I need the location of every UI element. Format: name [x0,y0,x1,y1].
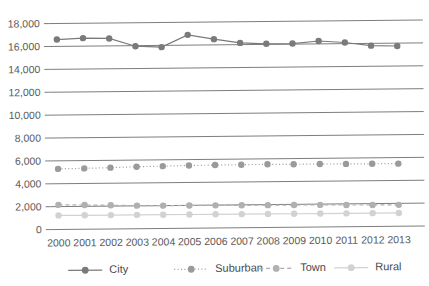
data-point [80,35,86,41]
x-tick-label: 2006 [204,235,228,247]
x-tick-label: 2010 [309,234,333,246]
data-point [317,202,323,208]
gridline [50,157,424,161]
legend-item-town[interactable]: Town [259,261,326,274]
data-point [315,38,321,44]
series-suburban [55,160,402,172]
data-point [396,210,402,216]
y-tick-label: 6,000 [15,155,42,167]
legend-marker [82,267,89,274]
gridlines [49,20,425,230]
data-point [211,36,217,42]
x-tick-label: 2003 [126,236,150,248]
data-point [343,161,349,167]
series-rural [55,209,402,220]
data-point [394,43,400,49]
legend-marker [188,266,195,273]
data-point [342,39,348,45]
x-tick-label: 2011 [335,234,358,246]
data-point [264,161,270,167]
x-tick-label: 2007 [230,235,254,247]
legend-label: Suburban [215,261,263,273]
legend-label: City [109,263,129,275]
data-point [368,42,374,48]
series-city [54,30,401,53]
data-point [317,161,323,167]
data-point [289,40,295,46]
data-point [263,41,269,47]
legend-marker [348,264,355,271]
data-point [184,32,190,38]
x-tick-label: 2009 [283,234,307,246]
data-point [343,202,349,208]
data-point [369,161,375,167]
data-point [237,40,243,46]
data-point [395,160,401,166]
data-point [186,202,192,208]
data-point [160,211,166,217]
gridline [49,66,423,70]
data-point [186,211,192,217]
y-tick-label: 2,000 [15,200,42,212]
legend-marker [273,265,280,272]
line-chart: 18,00016,00014,00012,00010,0008,0006,000… [0,0,429,286]
chart-legend: CitySuburbanTownRural [68,260,401,275]
data-point [265,202,271,208]
data-point [81,212,87,218]
legend-item-city[interactable]: City [68,263,129,276]
chart-svg: 18,00016,00014,00012,00010,0008,0006,000… [0,0,429,286]
data-point [107,164,113,170]
gridline [49,20,423,24]
data-point [343,210,349,216]
series-town [55,198,402,211]
gridline [50,180,424,184]
data-point [108,202,114,208]
data-series-layer [54,30,402,220]
x-tick-label: 2013 [387,233,411,245]
data-point [212,202,218,208]
data-point [132,43,138,49]
data-point [160,163,166,169]
y-tick-label: 4,000 [15,177,42,189]
legend-label: Town [300,261,326,273]
data-point [134,202,140,208]
data-point [55,166,61,172]
x-tick-label: 2001 [73,236,97,248]
legend-item-suburban[interactable]: Suburban [174,261,263,274]
x-axis-tick-labels: 2000200120022003200420052006200720082009… [47,233,411,248]
data-point [291,211,297,217]
data-point [81,202,87,208]
data-point [239,211,245,217]
data-point [134,212,140,218]
gridline [51,226,425,230]
x-tick-label: 2000 [47,236,71,248]
data-point [369,202,375,208]
x-tick-label: 2008 [256,234,280,246]
y-tick-label: 16,000 [8,40,40,52]
x-tick-label: 2005 [178,235,202,247]
data-point [54,36,60,42]
x-tick-label: 2012 [361,233,385,245]
data-point [55,212,61,218]
data-point [238,202,244,208]
y-tick-label: 14,000 [8,63,40,75]
data-point [317,210,323,216]
legend-item-rural[interactable]: Rural [334,260,401,273]
y-axis-tick-labels: 18,00016,00014,00012,00010,0008,0006,000… [8,17,42,235]
legend-label: Rural [375,260,401,272]
data-point [212,162,218,168]
data-point [290,161,296,167]
data-point [369,210,375,216]
data-point [238,161,244,167]
data-point [396,202,402,208]
data-point [55,202,61,208]
data-point [106,35,112,41]
data-point [212,211,218,217]
y-tick-label: 10,000 [9,109,41,121]
data-point [81,165,87,171]
data-point [108,212,114,218]
x-tick-label: 2004 [152,235,176,247]
x-tick-label: 2002 [99,236,123,248]
y-tick-label: 12,000 [8,86,40,98]
data-point [186,162,192,168]
